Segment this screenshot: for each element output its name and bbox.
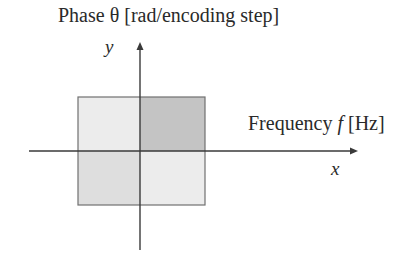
x-axis-arrowhead-icon <box>350 148 358 155</box>
y-axis-label: y <box>105 36 113 58</box>
quadrant-top-left <box>78 97 140 151</box>
x-axis-title-suffix: [Hz] <box>343 112 385 134</box>
quadrant-bottom-left <box>78 151 140 205</box>
quadrant-bottom-right <box>140 151 205 205</box>
x-axis-label: x <box>331 158 339 180</box>
coordinate-diagram <box>0 0 410 270</box>
y-axis-arrowhead-icon <box>137 42 144 50</box>
x-axis-title-prefix: Frequency <box>248 112 337 134</box>
y-axis-title: Phase θ [rad/encoding step] <box>58 4 279 27</box>
quadrant-top-right <box>140 97 205 151</box>
x-axis-title: Frequency f [Hz] <box>248 112 385 135</box>
